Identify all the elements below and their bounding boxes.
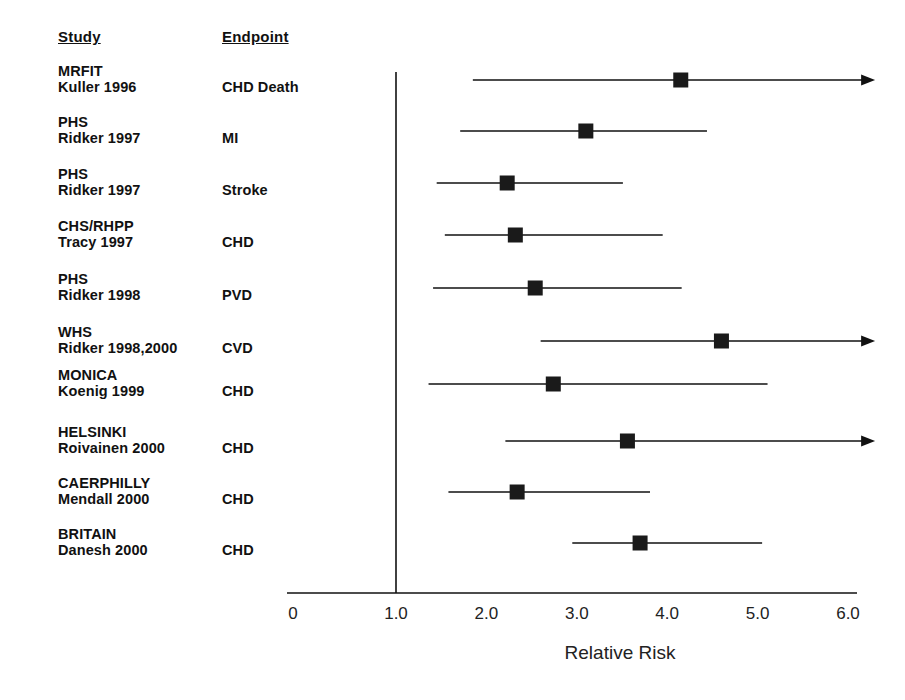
point-estimate-marker xyxy=(528,281,543,296)
x-axis-tick-label: 2.0 xyxy=(475,604,499,624)
point-estimate-marker xyxy=(508,228,523,243)
point-estimate-marker xyxy=(620,434,635,449)
x-axis-tick-label: 3.0 xyxy=(565,604,589,624)
x-axis-tick-label: 6.0 xyxy=(836,604,860,624)
point-estimate-marker xyxy=(714,334,729,349)
x-axis-tick-label: 0 xyxy=(288,604,297,624)
arrowhead-icon xyxy=(861,75,875,86)
x-axis-title: Relative Risk xyxy=(565,642,676,664)
forest-row xyxy=(541,334,875,349)
point-estimate-marker xyxy=(546,377,561,392)
forest-row xyxy=(445,228,663,243)
forest-plot: Study Endpoint MRFITKuller 1996CHD Death… xyxy=(0,0,905,700)
point-estimate-marker xyxy=(633,536,648,551)
forest-row xyxy=(473,73,875,88)
forest-row xyxy=(448,485,650,500)
forest-plot-rows xyxy=(429,73,876,551)
forest-row xyxy=(460,124,707,139)
arrowhead-icon xyxy=(861,336,875,347)
x-axis-tick-label: 5.0 xyxy=(746,604,770,624)
point-estimate-marker xyxy=(673,73,688,88)
x-axis-tick-label: 1.0 xyxy=(384,604,408,624)
point-estimate-marker xyxy=(510,485,525,500)
forest-row xyxy=(433,281,682,296)
forest-row xyxy=(572,536,762,551)
arrowhead-icon xyxy=(861,436,875,447)
forest-row xyxy=(429,377,768,392)
point-estimate-marker xyxy=(500,176,515,191)
x-axis-tick-label: 4.0 xyxy=(655,604,679,624)
point-estimate-marker xyxy=(578,124,593,139)
forest-plot-canvas xyxy=(0,0,905,700)
forest-row xyxy=(505,434,875,449)
forest-row xyxy=(437,176,623,191)
